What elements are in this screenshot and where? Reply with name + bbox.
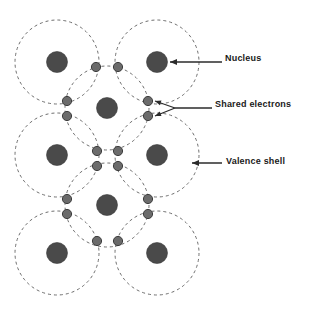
- pair-upper-left-electron-2: [62, 111, 71, 120]
- atom-middle-right-nucleus: [147, 145, 168, 166]
- atom-top-left-nucleus: [47, 52, 68, 73]
- pair-bottom-electron-2: [113, 236, 122, 245]
- pair-top-electron-2: [113, 62, 122, 71]
- pair-top-electron-1: [91, 62, 100, 71]
- pair-lower-left-electron-2: [62, 209, 71, 218]
- leader-valence-shell-arrowhead: [192, 160, 199, 166]
- diagram-canvas: Nucleus Shared electrons Valence shell: [0, 0, 309, 311]
- label-shared-electrons: Shared electrons: [215, 100, 291, 109]
- pair-middle-upper-electron-1: [92, 146, 101, 155]
- atom-bottom-left-nucleus: [47, 243, 68, 264]
- atom-top-right-nucleus: [147, 52, 168, 73]
- pair-lower-left-electron-1: [62, 194, 71, 203]
- pair-upper-right-electron-2: [143, 111, 152, 120]
- pair-upper-left-electron-1: [62, 96, 71, 105]
- leader-shared-electrons-arrowhead-2: [155, 111, 162, 116]
- leader-valence-shell: [192, 160, 222, 166]
- pair-middle-lower-electron-1: [92, 161, 101, 170]
- atom-bottom-right-nucleus: [147, 243, 168, 264]
- pair-upper-right-electron-1: [143, 96, 152, 105]
- pair-lower-right-electron-1: [143, 194, 152, 203]
- atom-center-upper-nucleus: [97, 98, 118, 119]
- leader-nucleus: [170, 59, 222, 65]
- leader-nucleus-arrowhead: [170, 59, 177, 65]
- shared-electrons-group: [62, 62, 152, 245]
- pair-bottom-electron-1: [92, 236, 101, 245]
- pair-middle-lower-electron-2: [113, 161, 122, 170]
- pair-lower-right-electron-2: [143, 209, 152, 218]
- label-nucleus: Nucleus: [225, 54, 261, 63]
- nuclei-group: [47, 52, 168, 264]
- atom-center-lower-nucleus: [97, 195, 118, 216]
- leader-shared-electrons-arrowhead-1: [155, 101, 161, 106]
- pair-middle-upper-electron-2: [113, 146, 122, 155]
- label-valence-shell: Valence shell: [226, 157, 285, 166]
- atom-middle-left-nucleus: [47, 145, 68, 166]
